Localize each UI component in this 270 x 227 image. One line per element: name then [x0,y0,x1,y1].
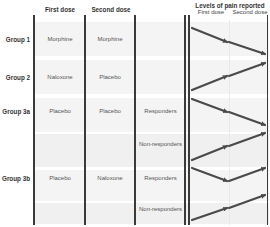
arrow-group-2-a [192,76,227,90]
arrow-group-1-b [229,42,265,54]
arrow-group-3b-nonresponders-a [192,208,227,220]
arrow-group-1-a [192,28,227,42]
arrow-group-2-b [229,63,265,76]
arrow-group-3a-responders-a [192,99,227,112]
arrow-group-3a-nonresponders-b [229,133,265,146]
arrow-group-3a-responders-b [229,112,265,125]
arrow-group-3b-nonresponders-b [229,195,265,208]
arrow-group-3a-nonresponders-a [192,146,227,160]
pain-arrows [0,0,270,227]
arrow-group-3b-responders-b [229,168,265,181]
arrow-group-3b-responders-a [192,168,227,181]
